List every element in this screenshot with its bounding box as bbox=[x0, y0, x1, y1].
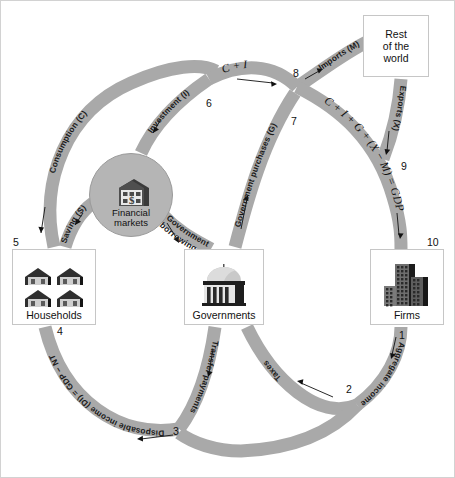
junction-number-3: 3 bbox=[173, 425, 179, 437]
junction-number-6: 6 bbox=[206, 97, 212, 109]
firms-node[interactable]: Firms bbox=[370, 249, 444, 325]
capitol-building-icon bbox=[195, 263, 253, 309]
junction-number-9: 9 bbox=[401, 160, 407, 172]
governments-node[interactable]: Governments bbox=[184, 249, 264, 325]
flow-label-consumption: Consumption (C) bbox=[47, 108, 89, 174]
junction-number-1: 1 bbox=[399, 329, 405, 341]
circular-flow-diagram: Consumption (C) Saving (S) Investment (I… bbox=[0, 0, 455, 478]
band-investment bbox=[141, 79, 209, 153]
office-buildings-icon bbox=[381, 261, 433, 309]
governments-label: Governments bbox=[192, 309, 255, 321]
junction-number-10: 10 bbox=[427, 236, 439, 248]
financial-markets-node[interactable]: $ Financial markets bbox=[89, 153, 173, 237]
junction-number-5: 5 bbox=[13, 236, 19, 248]
band-government-purchases bbox=[235, 93, 295, 247]
households-label: Households bbox=[26, 309, 81, 321]
junction-number-2: 2 bbox=[346, 383, 352, 395]
households-node[interactable]: Households bbox=[12, 249, 96, 325]
rest-of-world-label: Rest of the world bbox=[383, 28, 409, 64]
band-c-plus-i bbox=[209, 68, 297, 87]
junction-number-4: 4 bbox=[57, 325, 63, 337]
flow-label-investment: Investment (I) bbox=[145, 87, 191, 135]
junction-number-8: 8 bbox=[293, 67, 299, 79]
rest-of-world-node[interactable]: Rest of the world bbox=[363, 15, 429, 77]
svg-text:$: $ bbox=[129, 193, 135, 205]
houses-icon bbox=[23, 265, 85, 309]
bank-dollar-icon: $ bbox=[110, 178, 152, 208]
financial-markets-label: Financial markets bbox=[112, 208, 150, 229]
flow-label-government-purchases: Government purchases (G) bbox=[232, 121, 278, 228]
junction-number-7: 7 bbox=[291, 115, 297, 127]
firms-label: Firms bbox=[394, 309, 420, 321]
